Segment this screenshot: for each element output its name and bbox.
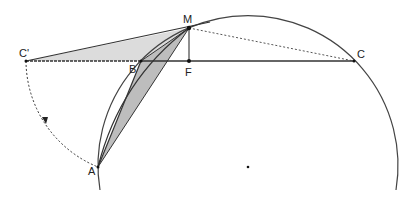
point-f [187,59,191,63]
center-o [247,166,250,169]
dashed-segment-m-c [189,28,354,61]
label-b: B [129,63,136,75]
point-cprime [25,60,28,63]
label-m: M [183,13,192,25]
point-b [140,60,143,63]
point-m [187,26,191,30]
point-a [97,166,100,169]
dashed-rotation-arc [26,61,98,167]
label-cprime: C' [19,47,29,59]
label-c: C [357,48,365,60]
label-f: F [185,66,192,78]
geometry-diagram: M F B C' C A [0,0,417,201]
point-c [353,60,356,63]
label-a: A [88,165,96,177]
segment-a-b [98,61,141,167]
